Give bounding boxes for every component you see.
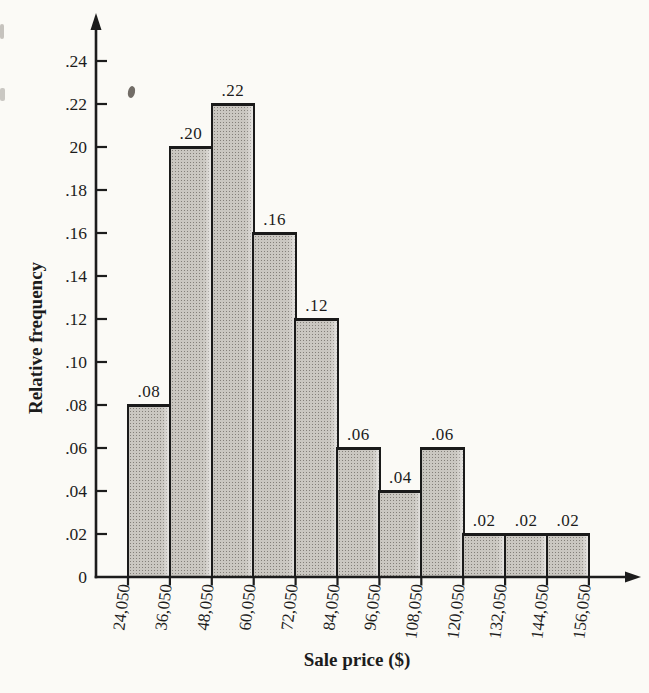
y-tick-label: .18 [21,180,87,200]
y-tick-label: .24 [21,51,87,71]
bar-value-label: .06 [431,425,454,445]
y-tick-label: 0 [21,567,87,587]
labels-layer: Relative frequency Sale price ($) 0.02.0… [0,0,649,693]
x-tick-label: 144,050 [528,583,553,640]
bar-value-label: .20 [179,124,202,144]
x-tick-label: 36,050 [152,583,176,632]
y-tick-label: .02 [21,524,87,544]
bar-value-label: .22 [221,81,244,101]
y-tick-label: .12 [21,309,87,329]
y-tick-label: .16 [21,223,87,243]
bar-value-label: .02 [557,511,580,531]
x-axis-title: Sale price ($) [304,649,411,671]
bar-value-label: .08 [138,382,161,402]
page-edge-artifact [0,24,4,39]
x-tick-label: 84,050 [320,583,344,632]
y-tick-label: .22 [21,94,87,114]
x-tick-label: 108,050 [403,583,428,640]
x-tick-label: 132,050 [486,583,511,640]
x-tick-label: 48,050 [194,583,218,632]
bar-value-label: .02 [515,511,538,531]
histogram-figure: Relative frequency Sale price ($) 0.02.0… [0,0,649,693]
y-tick-label: .04 [21,481,87,501]
bar-value-label: .12 [305,296,328,316]
page-edge-artifact [0,88,5,101]
bar-value-label: .06 [347,425,370,445]
x-tick-label: 156,050 [570,583,595,640]
x-tick-label: 60,050 [236,583,260,632]
y-tick-label: .14 [21,266,87,286]
y-tick-label: .10 [21,352,87,372]
y-tick-label: .08 [21,395,87,415]
y-tick-label: .06 [21,438,87,458]
x-tick-label: 24,050 [110,583,134,632]
x-tick-label: 96,050 [362,583,386,632]
x-tick-label: 72,050 [278,583,302,632]
bar-value-label: .16 [263,210,286,230]
bar-value-label: .02 [473,511,496,531]
y-tick-label: 20 [21,137,87,157]
bar-value-label: .04 [389,468,412,488]
x-tick-label: 120,050 [444,583,469,640]
